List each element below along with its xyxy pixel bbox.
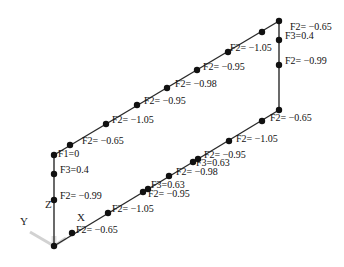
force-label: F2= −0.99 xyxy=(60,191,102,201)
node-dot-icon xyxy=(226,138,232,144)
force-label: F2= −0.65 xyxy=(76,225,118,235)
force-label: F3=0.4 xyxy=(285,31,314,41)
force-label: F2= −0.95 xyxy=(144,96,186,106)
force-label: F2= −1.05 xyxy=(236,134,278,144)
node-dot-icon xyxy=(51,152,57,158)
node-dot-icon xyxy=(103,121,109,127)
node-dot-icon xyxy=(259,29,265,35)
force-label: F2= −0.98 xyxy=(175,79,217,89)
force-label: F2= −0.65 xyxy=(82,136,124,146)
node-dot-icon xyxy=(51,171,57,177)
node-dot-icon xyxy=(164,85,170,91)
x-axis-label: X xyxy=(77,212,85,223)
force-label: F2= −0.98 xyxy=(176,167,218,177)
force-label: F2= −1.05 xyxy=(230,43,272,53)
node-dot-icon xyxy=(276,62,282,68)
y-axis-label: Y xyxy=(20,216,28,227)
node-dot-icon xyxy=(259,118,265,124)
node-dot-icon xyxy=(134,102,140,108)
force-label: F2= −1.05 xyxy=(112,204,154,214)
frame-diagram: F2= −0.65F3=0.4F2= −1.05F2= −0.99F2= −0.… xyxy=(0,0,344,267)
force-label: F1=0 xyxy=(58,149,79,159)
z-axis-label: Z xyxy=(45,199,52,210)
axis-triad-icon xyxy=(30,232,66,246)
node-dot-icon xyxy=(276,18,282,24)
force-label: F3=0.4 xyxy=(60,165,89,175)
force-label: F2= −1.05 xyxy=(112,115,154,125)
node-dot-icon xyxy=(105,210,111,216)
force-label: F2= −0.65 xyxy=(270,113,312,123)
node-dot-icon xyxy=(276,37,282,43)
force-label: F2= −0.95 xyxy=(148,189,190,199)
node-dot-icon xyxy=(194,67,200,73)
node-dot-icon xyxy=(51,243,57,249)
node-dot-icon xyxy=(69,230,75,236)
force-label: F2= −0.99 xyxy=(285,56,327,66)
force-label: F2= −0.95 xyxy=(203,62,245,72)
node-dot-icon xyxy=(140,189,146,195)
